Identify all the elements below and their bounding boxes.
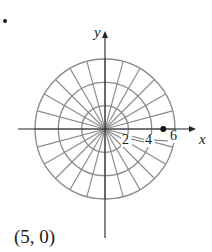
grid-spoke — [105, 61, 123, 129]
y-axis-arrow-icon — [102, 31, 108, 38]
grid-spoke — [37, 111, 105, 129]
y-axis-label: y — [94, 24, 101, 41]
radial-tick-4: 4 — [145, 132, 152, 148]
plotted-point — [160, 126, 166, 132]
grid-spoke — [87, 129, 105, 197]
bullet-dot — [3, 19, 7, 23]
radial-tick-6: 6 — [170, 128, 177, 144]
point-caption: (5, 0) — [14, 226, 55, 248]
grid-spoke — [87, 61, 105, 129]
grid-spoke — [37, 129, 105, 147]
grid-spoke — [105, 129, 123, 197]
radial-tick-2: 2 — [122, 132, 129, 148]
x-axis-label: x — [199, 131, 206, 148]
leader-4-6 — [154, 140, 168, 141]
polar-grid-figure — [0, 0, 212, 252]
x-axis-arrow-icon — [189, 126, 196, 132]
